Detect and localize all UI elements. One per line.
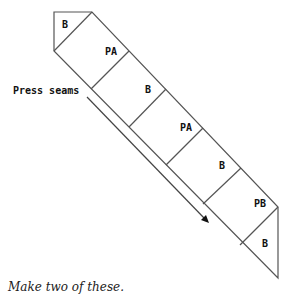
press-seams-label: Press seams — [13, 85, 79, 96]
piece-label-7: B — [262, 238, 268, 249]
piece-label-3: B — [145, 84, 151, 95]
piece-label-5: B — [219, 160, 225, 171]
piece-label-2: PA — [105, 46, 117, 57]
seam-lines — [54, 12, 278, 245]
seam-line-1 — [54, 12, 92, 51]
press-seams-annotation: Press seams — [13, 85, 209, 223]
seam-line-6 — [240, 207, 278, 245]
seam-line-5 — [203, 168, 241, 204]
piece-label-4: PA — [180, 122, 192, 133]
piece-labels: B PA B PA B PB B — [62, 19, 268, 249]
strip-outline — [54, 12, 278, 278]
instruction-caption: Make two of these. — [8, 280, 124, 294]
seam-line-4 — [166, 128, 203, 165]
quilt-strip-diagram: B PA B PA B PB B Press seams — [0, 0, 292, 298]
piece-label-6: PB — [254, 198, 266, 209]
piece-label-1: B — [62, 19, 68, 30]
outer-strip-shape — [54, 12, 278, 278]
